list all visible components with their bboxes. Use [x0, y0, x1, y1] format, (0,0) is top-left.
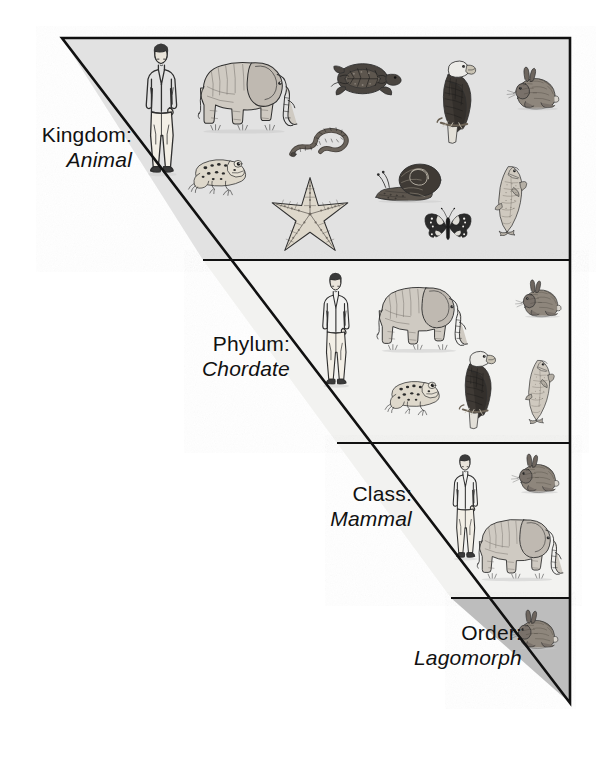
rank-label-order: Order: Lagomorph	[362, 621, 522, 671]
rank-value-kingdom: Animal	[2, 148, 132, 173]
rank-value-class: Mammal	[282, 507, 412, 532]
rank-value-phylum: Chordate	[160, 357, 290, 382]
rank-name-kingdom: Kingdom:	[2, 123, 132, 148]
rank-name-phylum: Phylum:	[160, 332, 290, 357]
rank-name-class: Class:	[282, 482, 412, 507]
rank-value-order: Lagomorph	[362, 646, 522, 671]
rank-label-phylum: Phylum: Chordate	[160, 332, 290, 382]
rank-label-kingdom: Kingdom: Animal	[2, 123, 132, 173]
rank-label-class: Class: Mammal	[282, 482, 412, 532]
rank-name-order: Order:	[362, 621, 522, 646]
